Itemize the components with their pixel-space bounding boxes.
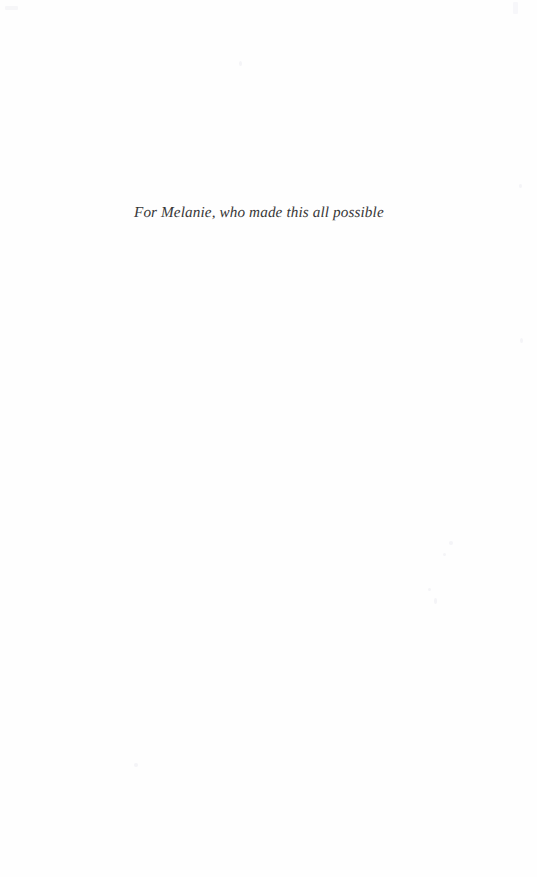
scanned-page: For Melanie, who made this all possible (0, 0, 537, 877)
scan-speck (434, 598, 437, 604)
scan-speck (513, 2, 518, 14)
scan-speck (428, 588, 431, 591)
scan-speck (443, 553, 446, 556)
dedication-text: For Melanie, who made this all possible (134, 203, 434, 223)
scan-speck (239, 61, 242, 66)
scan-speck (519, 184, 522, 188)
scan-speck (134, 763, 138, 767)
scan-speck (449, 541, 453, 545)
dedication-block: For Melanie, who made this all possible (134, 203, 434, 223)
scan-speck (5, 6, 18, 10)
scan-speck (520, 338, 523, 343)
